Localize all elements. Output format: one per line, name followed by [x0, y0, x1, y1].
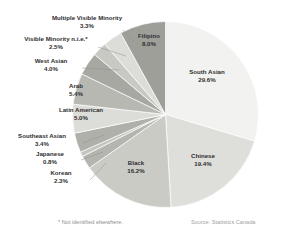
pie-label-percent: 29.6% — [176, 76, 238, 84]
pie-label-percent: 5.0% — [43, 114, 119, 122]
pie-label-west-asian: West Asian 4.0% — [20, 57, 82, 72]
pie-label-arab: Arab 5.4% — [49, 82, 103, 97]
pie-label-name: Black — [113, 159, 159, 167]
source-note: Source: Statistics Canada — [191, 219, 255, 225]
pie-label-multiple-visible-minority: Multiple Visible Minority 3.3% — [32, 14, 142, 29]
pie-label-filipino: Filipino 8.0% — [126, 32, 172, 47]
pie-label-south-asian: South Asian 29.6% — [176, 68, 238, 83]
pie-label-korean: Korean 2.3% — [32, 169, 90, 184]
pie-label-name: Multiple Visible Minority — [32, 14, 142, 22]
footnote-not-identified-elsewhere: * Not identified elsewhere. — [58, 219, 123, 225]
pie-label-percent: 5.4% — [49, 90, 103, 98]
pie-label-name: Visible Minority n.i.e.* — [12, 35, 100, 43]
pie-label-chinese: Chinese 19.4% — [178, 152, 228, 167]
pie-label-name: Chinese — [178, 152, 228, 160]
pie-label-percent: 3.4% — [2, 140, 82, 148]
pie-chart-figure: Multiple Visible Minority 3.3% Visible M… — [0, 0, 293, 242]
pie-label-latin-american: Latin American 5.0% — [43, 106, 119, 121]
pie-label-percent: 19.4% — [178, 160, 228, 168]
pie-label-percent: 2.5% — [12, 43, 100, 51]
pie-label-percent: 8.0% — [126, 40, 172, 48]
pie-label-name: Southeast Asian — [2, 132, 82, 140]
pie-label-percent: 16.2% — [113, 167, 159, 175]
pie-label-southeast-asian: Southeast Asian 3.4% — [2, 132, 82, 147]
pie-label-percent: 4.0% — [20, 65, 82, 73]
pie-label-name: South Asian — [176, 68, 238, 76]
pie-label-black: Black 16.2% — [113, 159, 159, 174]
pie-label-percent: 3.3% — [32, 22, 142, 30]
pie-label-name: Latin American — [43, 106, 119, 114]
pie-label-percent: 0.8% — [19, 158, 81, 166]
pie-label-name: Japanese — [19, 150, 81, 158]
pie-label-name: Filipino — [126, 32, 172, 40]
pie-label-name: Korean — [32, 169, 90, 177]
pie-label-visible-minority-nie: Visible Minority n.i.e.* 2.5% — [12, 35, 100, 50]
pie-label-name: West Asian — [20, 57, 82, 65]
pie-label-percent: 2.3% — [32, 177, 90, 185]
pie-label-name: Arab — [49, 82, 103, 90]
pie-label-japanese: Japanese 0.8% — [19, 150, 81, 165]
